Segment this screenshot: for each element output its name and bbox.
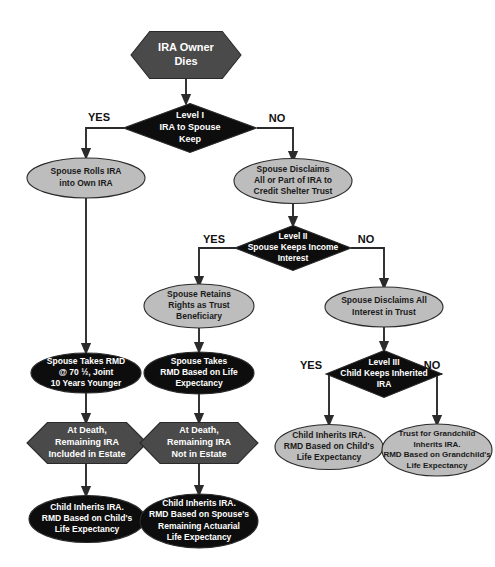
- branch-label-level2-no: NO: [358, 233, 375, 245]
- node-child-inherits-spouse-actuarial[interactable]: Child Inherits IRA.RMD Based on Spouse's…: [140, 494, 258, 548]
- node-spouse-takes-rmd-life[interactable]: Spouse TakesRMD Based on LifeExpectancy: [144, 352, 254, 394]
- node-level-2[interactable]: Level IISpouse Keeps IncomeInterest: [235, 226, 351, 271]
- connector-level3-to-yes: [327, 374, 329, 421]
- node-shape-ellipse: [144, 352, 254, 394]
- node-level-3[interactable]: Level IIIChild Keeps InheritedIRA: [326, 351, 442, 398]
- node-shape-ellipse: [275, 425, 383, 470]
- node-spouse-disclaims-all[interactable]: Spouse Disclaims AllInterest in Trust: [325, 287, 443, 327]
- connectors-layer: [86, 79, 442, 492]
- node-shape-ellipse: [27, 158, 145, 198]
- node-shape-diamond: [124, 104, 257, 153]
- node-shape-ellipse: [234, 159, 352, 204]
- node-spouse-disclaims-part[interactable]: Spouse DisclaimsAll or Part of IRA toCre…: [234, 159, 352, 204]
- node-shape-diamond: [326, 351, 442, 398]
- branch-label-level3-yes: YES: [300, 359, 322, 371]
- node-shape-diamond: [235, 226, 351, 271]
- node-shape-ellipse: [31, 353, 141, 393]
- node-level-1[interactable]: Level IIRA to SpouseKeep: [124, 104, 257, 153]
- node-shape-ellipse: [325, 287, 443, 327]
- node-child-inherits-child-life[interactable]: Child Inherits IRA.RMD Based on Child'sL…: [29, 496, 145, 543]
- node-shape-ellipse: [382, 424, 492, 476]
- node-spouse-retains-rights[interactable]: Spouse RetainsRights as TrustBeneficiary: [144, 284, 254, 328]
- branch-label-level1-no: NO: [269, 112, 286, 124]
- nodes-layer: IRA OwnerDiesLevel IIRA to SpouseKeepSpo…: [27, 32, 492, 549]
- connector-level1-to-no: [257, 128, 293, 157]
- connector-level2-to-yes: [199, 248, 236, 282]
- node-spouse-takes-rmd-70[interactable]: Spouse Takes RMD@ 70 ½, Joint10 Years Yo…: [31, 353, 141, 393]
- node-shape-hexagon: [140, 423, 258, 464]
- connector-level3-to-no: [437, 374, 442, 421]
- node-child-inherits-level3[interactable]: Child Inherits IRA.RMD Based on Child'sL…: [275, 425, 383, 470]
- connector-level1-to-yes: [86, 128, 124, 154]
- node-at-death-included[interactable]: At Death,Remaining IRAIncluded in Estate: [27, 423, 147, 464]
- flowchart-svg: IRA OwnerDiesLevel IIRA to SpouseKeepSpo…: [0, 0, 495, 567]
- node-shape-hexagon: [27, 423, 147, 464]
- node-at-death-not-included[interactable]: At Death,Remaining IRANot in Estate: [140, 423, 258, 464]
- node-shape-hexagon: [131, 32, 241, 79]
- node-shape-ellipse: [140, 494, 258, 548]
- node-shape-ellipse: [144, 284, 254, 328]
- node-ira-owner-dies[interactable]: IRA OwnerDies: [131, 32, 241, 79]
- node-spouse-rolls-ira[interactable]: Spouse Rolls IRAinto Own IRA: [27, 158, 145, 198]
- branch-label-level3-no: NO: [424, 359, 441, 371]
- branch-label-level2-yes: YES: [203, 233, 225, 245]
- node-shape-ellipse: [29, 496, 145, 543]
- connector-level2-to-no: [351, 248, 384, 284]
- branch-label-level1-yes: YES: [88, 111, 110, 123]
- flowchart-canvas: IRA OwnerDiesLevel IIRA to SpouseKeepSpo…: [0, 0, 495, 567]
- node-trust-for-grandchild[interactable]: Trust for GrandchildInherits IRA.RMD Bas…: [382, 424, 492, 476]
